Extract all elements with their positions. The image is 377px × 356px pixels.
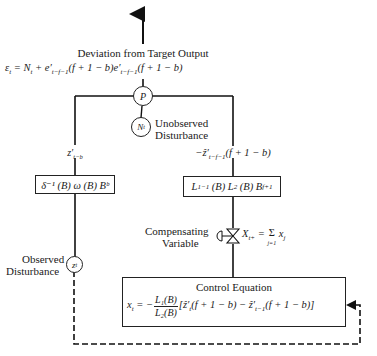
control-equation-block: Control Equation xt = − L₁(B)L₂(B) [ẑ′t(… xyxy=(122,277,346,327)
control-title: Control Equation xyxy=(123,281,345,293)
unobserved-label-2: Disturbance xyxy=(155,129,208,141)
observed-node: zt xyxy=(66,256,83,273)
feedforward-arrowhead xyxy=(346,300,356,310)
compensating-label-1: Compensating xyxy=(145,225,209,237)
unobserved-node: Nt xyxy=(131,117,151,137)
output-title: Deviation from Target Output xyxy=(77,47,208,59)
control-equation: xt = − L₁(B)L₂(B) [ẑ′t(f + 1 − b) − ẑ′t−… xyxy=(127,294,314,319)
left-signal-label: z′t−b xyxy=(67,147,83,163)
valve-icon xyxy=(217,229,239,243)
observed-label-2: Disturbance xyxy=(6,265,59,277)
compensating-label-2: Variable xyxy=(162,237,199,249)
output-equation: εt = Nt + e′t−f−1(f + 1 − b)e′t−f−1(f + … xyxy=(5,62,183,78)
observed-label-1: Observed xyxy=(22,253,64,265)
sum-node-p: P xyxy=(133,86,153,106)
unobserved-label-1: Unobserved xyxy=(155,117,208,129)
right-signal-label: −ẑ′t−f−1(f + 1 − b) xyxy=(195,147,270,163)
left-transfer-block: δ⁻¹ (B) ω (B) Bᵇ xyxy=(35,175,115,194)
right-transfer-block: L1−1 (B) L2 (B) Bf+1 xyxy=(183,176,281,197)
compensating-equation: Xt+ = Σj=1 xj xyxy=(242,228,285,248)
